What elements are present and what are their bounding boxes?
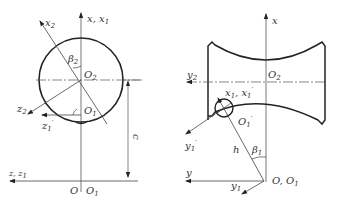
beta2-arc <box>73 66 81 68</box>
z2-axis <box>28 80 81 114</box>
label-x2: x2 <box>45 17 56 30</box>
label-x: x <box>272 15 278 26</box>
label-O1-prime: O1′ <box>238 115 253 129</box>
label-O1-prime: O1 <box>84 105 97 118</box>
diagram-svg: x2 x, x1 β2 O2 z2 z1′ O1 c z, z1 O O1 x … <box>0 0 338 206</box>
beta1-arc <box>252 157 266 159</box>
label-O: O <box>70 185 78 196</box>
label-y1: y1 <box>230 180 241 193</box>
y1-prime-axis <box>186 108 224 134</box>
label-O2: O2 <box>268 69 281 82</box>
label-O1: O1 <box>86 185 99 198</box>
label-y1-prime: y1′ <box>184 139 197 153</box>
label-O-O1: O, O1 <box>272 175 299 188</box>
label-x-x1: x, x1 <box>87 13 109 26</box>
label-z2: z2 <box>16 103 27 116</box>
label-z-z1: z, z1 <box>8 169 27 180</box>
o1-prime-arc <box>73 109 77 115</box>
label-beta2: β2 <box>67 53 79 66</box>
label-x1-x1-prime: x1, x1′ <box>225 86 254 100</box>
coordinate-systems-diagram: x2 x, x1 β2 O2 z2 z1′ O1 c z, z1 O O1 x … <box>0 0 338 206</box>
label-h: h <box>233 144 239 155</box>
left-diagram: x2 x, x1 β2 O2 z2 z1′ O1 c z, z1 O O1 <box>8 13 142 198</box>
h-line <box>218 98 264 181</box>
label-beta1: β1 <box>251 144 262 157</box>
label-c: c <box>131 134 142 140</box>
dimension-c-top-arrow <box>126 80 130 86</box>
label-y: y <box>185 167 192 178</box>
y1-axis <box>242 181 264 194</box>
right-diagram: x y2 O2 x1, x1′ O1′ y1′ h β1 y y1 O, O1 <box>184 14 325 194</box>
label-y2: y2 <box>186 69 198 82</box>
label-z1-prime: z1′ <box>41 119 54 133</box>
